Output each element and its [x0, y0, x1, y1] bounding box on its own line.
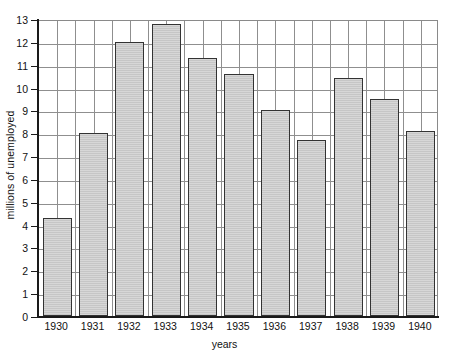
y-axis-line: [37, 19, 39, 318]
bar-1931: [79, 133, 108, 316]
y-axis-tick-label: 11: [0, 61, 28, 71]
x-axis-tick-label: 1936: [256, 321, 292, 332]
bar-chart: millions of unemployed 01234567891011121…: [0, 0, 449, 356]
x-axis-tick-label: 1937: [293, 321, 329, 332]
y-axis-tick-label: 4: [0, 221, 28, 231]
y-axis-tick-label: 0: [0, 312, 28, 322]
y-axis-tick-label: 10: [0, 84, 28, 94]
bar-series: [39, 21, 437, 316]
bar-1936: [261, 110, 290, 316]
x-axis-title: years: [0, 338, 449, 350]
bar-1937: [297, 140, 326, 316]
bar-1933: [152, 24, 181, 316]
x-axis-tick-label: 1931: [74, 321, 110, 332]
y-axis-tick-label: 3: [0, 243, 28, 253]
bar-1930: [43, 218, 72, 316]
x-axis-tick-label: 1930: [38, 321, 74, 332]
y-axis-title: millions of unemployed: [2, 0, 16, 330]
x-axis-tick-label: 1940: [402, 321, 438, 332]
y-axis-tick-label: 1: [0, 289, 28, 299]
y-axis-tick-label: 7: [0, 152, 28, 162]
x-axis-tick-label: 1932: [111, 321, 147, 332]
y-axis-tick-label: 13: [0, 15, 28, 25]
plot-area: [38, 20, 438, 317]
bar-1938: [334, 78, 363, 316]
bar-1940: [406, 131, 435, 316]
bar-1934: [188, 58, 217, 316]
y-axis-tick-label: 6: [0, 175, 28, 185]
y-axis-tick-label: 2: [0, 266, 28, 276]
x-axis-tick-label: 1935: [220, 321, 256, 332]
x-axis-line: [37, 316, 439, 318]
bar-1939: [370, 99, 399, 316]
x-axis-tick-label: 1939: [365, 321, 401, 332]
x-axis-tick-label: 1933: [147, 321, 183, 332]
bar-1932: [115, 42, 144, 316]
y-axis-tick-label: 12: [0, 38, 28, 48]
y-axis-tick-label: 8: [0, 129, 28, 139]
y-axis-tick-label: 9: [0, 106, 28, 116]
x-axis-tick-label: 1934: [183, 321, 219, 332]
y-axis-tick-label: 5: [0, 198, 28, 208]
x-axis-tick-label: 1938: [329, 321, 365, 332]
bar-1935: [224, 74, 253, 316]
